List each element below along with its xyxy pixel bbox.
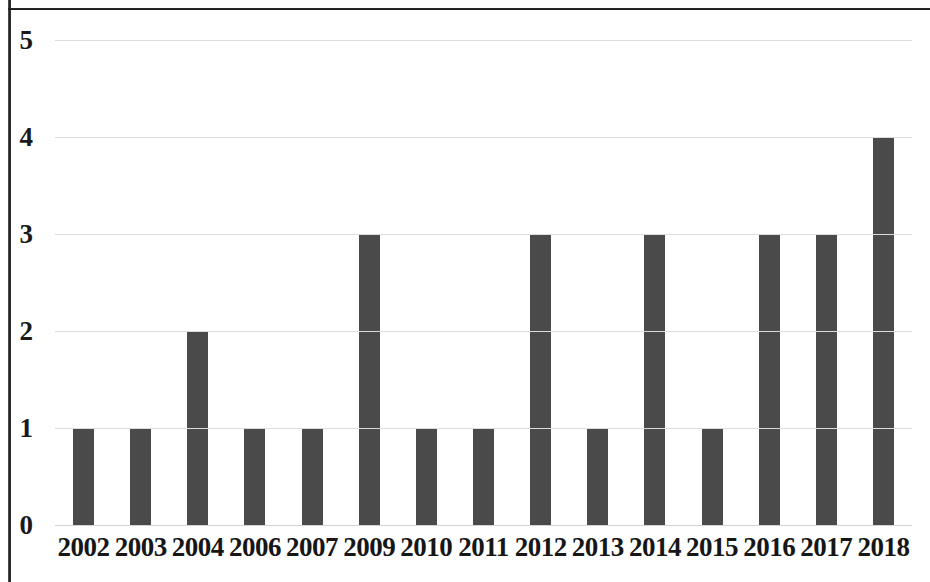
bar-2015 [702,428,723,525]
x-tick-label-2002: 2002 [58,533,110,563]
gridline-y-4 [55,137,912,138]
bar-2009 [359,234,380,525]
x-tick-label-2014: 2014 [629,533,681,563]
x-tick-label-2013: 2013 [572,533,624,563]
gridline-y-0 [55,525,912,526]
bar-chart-figure: 012345 200220032004200620072009201020112… [0,0,930,582]
bar-2017 [816,234,837,525]
y-tick-label-2: 2 [20,318,34,345]
gridline-y-5 [55,40,912,41]
bar-2007 [302,428,323,525]
y-tick-label-4: 4 [20,124,34,151]
page-frame-top-rule [8,8,930,10]
x-tick-label-2012: 2012 [515,533,567,563]
gridline-y-2 [55,331,912,332]
y-tick-label-1: 1 [20,415,34,442]
gridline-y-1 [55,428,912,429]
plot-area: 012345 [55,40,912,525]
bar-2003 [130,428,151,525]
bar-2012 [530,234,551,525]
x-tick-label-2016: 2016 [743,533,795,563]
x-tick-label-2007: 2007 [286,533,338,563]
bar-2006 [244,428,265,525]
x-tick-label-2010: 2010 [400,533,452,563]
x-tick-label-2015: 2015 [686,533,738,563]
y-tick-label-5: 5 [20,27,34,54]
page-frame-left-rule [8,0,11,582]
y-tick-label-0: 0 [20,512,34,539]
x-tick-label-2006: 2006 [229,533,281,563]
bar-2014 [644,234,665,525]
x-tick-label-2004: 2004 [172,533,224,563]
x-tick-label-2003: 2003 [115,533,167,563]
bar-2002 [73,428,94,525]
y-tick-label-3: 3 [20,221,34,248]
bar-2011 [473,428,494,525]
bars-layer [55,40,912,525]
bar-2010 [416,428,437,525]
bar-2016 [759,234,780,525]
x-tick-label-2011: 2011 [458,533,509,563]
x-tick-label-2017: 2017 [800,533,852,563]
gridline-y-3 [55,234,912,235]
x-tick-label-2009: 2009 [343,533,395,563]
x-axis-tick-labels: 2002200320042006200720092010201120122013… [55,533,912,575]
x-tick-label-2018: 2018 [857,533,909,563]
bar-2013 [587,428,608,525]
